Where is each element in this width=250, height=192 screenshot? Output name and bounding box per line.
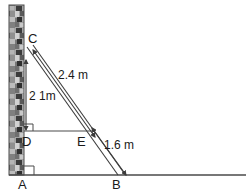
point-label-E: E (77, 134, 86, 149)
measure-label-height: 2 1m (29, 89, 56, 103)
ladder-rail-upper (27, 47, 118, 175)
point-label-B: B (112, 177, 121, 192)
point-label-A: A (18, 177, 27, 192)
point-label-D: D (22, 134, 31, 149)
wall (9, 5, 24, 175)
right-angle-at-A (24, 166, 34, 175)
right-angle-at-D (24, 124, 33, 131)
geometry-figure: C D E A B 2 1m 2.4 m 1.6 m (0, 0, 250, 192)
measure-label-upper: 2.4 m (58, 68, 88, 82)
measure-label-lower: 1.6 m (104, 138, 134, 152)
figure-canvas: C D E A B 2 1m 2.4 m 1.6 m (0, 0, 250, 192)
point-label-C: C (28, 31, 37, 46)
